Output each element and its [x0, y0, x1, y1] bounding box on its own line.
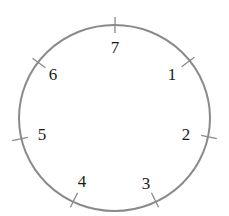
- point-label-7: 7: [111, 38, 120, 57]
- point-label-6: 6: [49, 65, 58, 84]
- point-labels: 1234567: [38, 38, 191, 193]
- point-label-2: 2: [182, 125, 191, 144]
- circle-diagram: 1234567: [0, 0, 229, 216]
- point-label-1: 1: [168, 65, 177, 84]
- point-label-4: 4: [78, 172, 87, 191]
- point-label-3: 3: [142, 174, 151, 193]
- point-label-5: 5: [38, 125, 47, 144]
- tick-mark-5: [12, 137, 28, 140]
